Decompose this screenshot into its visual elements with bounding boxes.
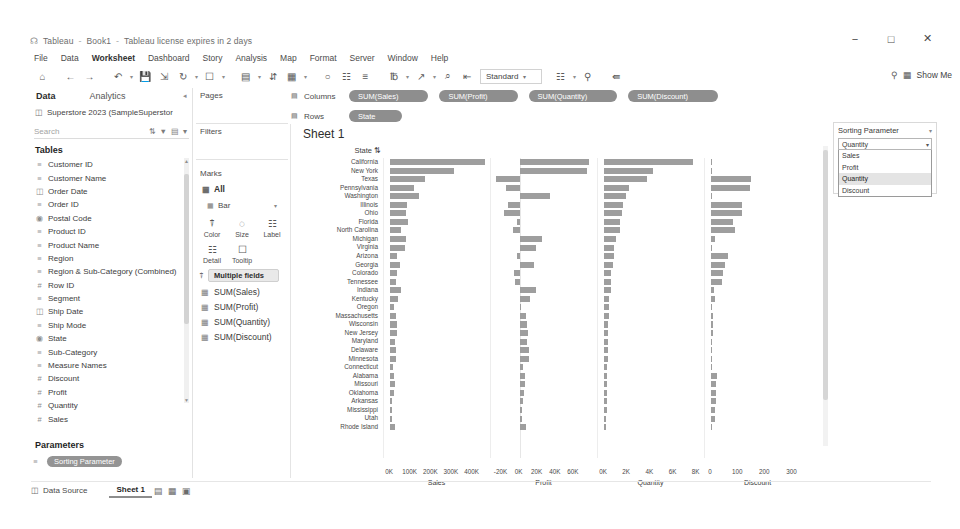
field-sales[interactable]: #Sales bbox=[35, 412, 192, 425]
bar[interactable] bbox=[520, 416, 522, 422]
bar[interactable] bbox=[604, 296, 609, 302]
data-pane-scrollbar[interactable]: ▲ ▼ bbox=[184, 158, 189, 403]
minimize-button[interactable]: − bbox=[847, 33, 863, 45]
bar[interactable] bbox=[390, 193, 419, 199]
bar[interactable] bbox=[520, 364, 523, 370]
parameter-dropdown[interactable]: Quantity ▾ bbox=[838, 138, 932, 150]
group-members-icon[interactable]: ☷ bbox=[337, 67, 356, 85]
pan-caret-icon[interactable]: ▾ bbox=[430, 73, 438, 80]
menu-dashboard[interactable]: Dashboard bbox=[147, 53, 191, 63]
row-label[interactable]: Maryland bbox=[303, 337, 381, 346]
pill-sum-profit[interactable]: SUM(Profit) bbox=[439, 90, 517, 102]
close-button[interactable]: ✕ bbox=[919, 32, 935, 45]
maximize-button[interactable]: □ bbox=[883, 33, 899, 45]
refresh-data-source-icon[interactable]: ↻ bbox=[173, 67, 192, 85]
field-product-name[interactable]: ≡Product Name bbox=[35, 238, 192, 251]
row-label[interactable]: California bbox=[303, 158, 381, 167]
bar[interactable] bbox=[711, 219, 733, 225]
bar[interactable] bbox=[604, 219, 620, 225]
bar[interactable] bbox=[390, 262, 400, 268]
bar[interactable] bbox=[711, 270, 723, 276]
field-profit[interactable]: #Profit bbox=[35, 386, 192, 399]
menu-server[interactable]: Server bbox=[349, 53, 376, 63]
bar[interactable] bbox=[390, 245, 405, 251]
row-label[interactable]: Texas bbox=[303, 175, 381, 184]
field-search-row[interactable]: Search ⇅ ▼ ▤ ▾ bbox=[34, 124, 189, 139]
bar[interactable] bbox=[604, 373, 607, 379]
marks-tooltip-button[interactable]: ☐ Tooltip bbox=[230, 244, 254, 264]
bar[interactable] bbox=[711, 253, 728, 259]
bar[interactable] bbox=[604, 185, 629, 191]
bar[interactable] bbox=[711, 279, 722, 285]
bar[interactable] bbox=[517, 253, 520, 259]
row-label[interactable]: Washington bbox=[303, 192, 381, 201]
pill-sum-quantity[interactable]: SUM(Quantity) bbox=[529, 90, 618, 102]
scroll-down-arrow-icon[interactable]: ▼ bbox=[184, 397, 189, 403]
mark-type-selector[interactable]: ▦ Bar ▾ bbox=[196, 197, 288, 214]
bar[interactable] bbox=[517, 219, 520, 225]
bar[interactable] bbox=[520, 159, 589, 165]
undo-caret-icon[interactable]: ▾ bbox=[127, 73, 135, 80]
menu-map[interactable]: Map bbox=[279, 53, 298, 63]
show-hide-cards-icon[interactable]: ☷ bbox=[551, 67, 570, 85]
field-customer-name[interactable]: ≡Customer Name bbox=[35, 171, 192, 184]
bar[interactable] bbox=[390, 296, 398, 302]
tab-analytics[interactable]: Analytics bbox=[87, 91, 129, 101]
columns-shelf[interactable]: ▤ Columns SUM(Sales) SUM(Profit) SUM(Qua… bbox=[290, 88, 930, 104]
pan-icon[interactable]: ↗ bbox=[411, 67, 430, 85]
cards-caret-icon[interactable]: ▾ bbox=[570, 73, 578, 80]
bar[interactable] bbox=[508, 202, 519, 208]
zoom-icon[interactable]: ⌕ bbox=[438, 67, 457, 85]
bar[interactable] bbox=[711, 356, 712, 362]
bar[interactable] bbox=[506, 185, 520, 191]
row-label[interactable]: New York bbox=[303, 167, 381, 176]
new-dashboard-icon[interactable]: ▦ bbox=[166, 486, 180, 496]
new-worksheet-icon[interactable]: ▤ bbox=[152, 486, 166, 496]
row-label[interactable]: Mississippi bbox=[303, 406, 381, 415]
row-header-state[interactable]: State ⇅ bbox=[309, 146, 381, 155]
marks-all-row[interactable]: ▦ All bbox=[196, 181, 288, 197]
bar[interactable] bbox=[520, 381, 526, 387]
field-quantity[interactable]: #Quantity bbox=[35, 399, 192, 412]
bar[interactable] bbox=[711, 339, 712, 345]
bar[interactable] bbox=[520, 321, 528, 327]
bar[interactable] bbox=[711, 262, 725, 268]
bar[interactable] bbox=[390, 176, 425, 182]
scroll-up-arrow-icon[interactable]: ▲ bbox=[184, 158, 189, 164]
bar[interactable] bbox=[390, 339, 395, 345]
menu-format[interactable]: Format bbox=[309, 53, 338, 63]
bar[interactable] bbox=[711, 193, 712, 199]
pill-sum-sales[interactable]: SUM(Sales) bbox=[349, 90, 428, 102]
row-label[interactable]: Alabama bbox=[303, 372, 381, 381]
bar[interactable] bbox=[520, 296, 530, 302]
view-caret-icon[interactable]: ▾ bbox=[181, 127, 189, 136]
share-icon[interactable]: ⇚ bbox=[606, 67, 625, 85]
row-label[interactable]: Ohio bbox=[303, 209, 381, 218]
sheet-tab-sheet-1[interactable]: Sheet 1 bbox=[109, 483, 151, 498]
bar[interactable] bbox=[711, 210, 742, 216]
search-input[interactable]: Search bbox=[34, 127, 147, 136]
parameter-option-sales[interactable]: Sales bbox=[839, 150, 931, 162]
bar[interactable] bbox=[390, 287, 401, 293]
bar[interactable] bbox=[513, 227, 520, 233]
bar[interactable] bbox=[390, 373, 394, 379]
row-label[interactable]: Virginia bbox=[303, 243, 381, 252]
row-label[interactable]: Delaware bbox=[303, 346, 381, 355]
bar[interactable] bbox=[711, 373, 717, 379]
bar[interactable] bbox=[711, 398, 716, 404]
save-icon[interactable]: 💾 bbox=[135, 67, 154, 85]
bar[interactable] bbox=[604, 270, 611, 276]
row-label[interactable]: Wisconsin bbox=[303, 320, 381, 329]
new-data-source-icon[interactable]: ⇲ bbox=[154, 67, 173, 85]
field-state[interactable]: ◉State bbox=[35, 332, 192, 345]
bar[interactable] bbox=[711, 416, 715, 422]
bar[interactable] bbox=[711, 381, 716, 387]
bar[interactable] bbox=[520, 287, 537, 293]
field-ship-mode[interactable]: ≡Ship Mode bbox=[35, 319, 192, 332]
parameter-panel-menu-icon[interactable]: ▾ bbox=[929, 127, 932, 134]
bar[interactable] bbox=[604, 356, 608, 362]
bar[interactable] bbox=[514, 270, 520, 276]
bar[interactable] bbox=[520, 236, 542, 242]
row-label[interactable]: Florida bbox=[303, 218, 381, 227]
bar[interactable] bbox=[711, 227, 735, 233]
